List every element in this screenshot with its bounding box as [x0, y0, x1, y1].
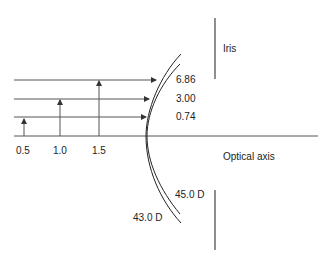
diagram-canvas	[0, 0, 328, 262]
iris-label: Iris	[223, 44, 236, 54]
outer-curve-power-label: 43.0 D	[133, 213, 162, 223]
optical-axis-label: Optical axis	[223, 152, 275, 162]
inner-curve-power-label: 45.0 D	[175, 190, 204, 200]
height-label-0.5: 0.5	[16, 146, 30, 156]
ray-value-1.0: 3.00	[176, 94, 195, 104]
height-label-1.5: 1.5	[92, 146, 106, 156]
ray-value-0.5: 0.74	[176, 112, 195, 122]
ray-value-1.5: 6.86	[176, 75, 195, 85]
height-label-1.0: 1.0	[53, 146, 67, 156]
